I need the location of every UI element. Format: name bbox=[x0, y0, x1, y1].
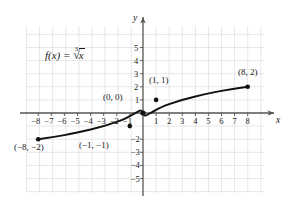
y-tick-5: 5 bbox=[134, 44, 138, 53]
x-tick-neg5: −5 bbox=[71, 117, 80, 126]
x-tick-7: 7 bbox=[232, 117, 236, 126]
label-point-origin: (0, 0) bbox=[103, 93, 123, 102]
label-point-1: (1, 1) bbox=[149, 76, 169, 85]
graph-figure: f(x) = 3√x y x −8 −7 −6 −5 −4 −3 −2 −1 1… bbox=[0, 0, 293, 210]
x-tick-neg1: −1 bbox=[123, 117, 132, 126]
label-point-8: (8, 2) bbox=[238, 68, 258, 77]
x-tick-neg6: −6 bbox=[58, 117, 67, 126]
y-axis bbox=[140, 17, 145, 196]
root-index: 3 bbox=[75, 46, 78, 53]
plot-canvas bbox=[0, 0, 293, 210]
x-tick-neg3: −3 bbox=[97, 117, 106, 126]
function-prefix: f(x) = bbox=[45, 49, 70, 61]
label-point-neg8: (−8, −2) bbox=[14, 143, 44, 152]
x-tick-neg7: −7 bbox=[45, 117, 54, 126]
y-tick-neg3: −3 bbox=[131, 148, 140, 157]
x-tick-3: 3 bbox=[180, 117, 184, 126]
x-tick-4: 4 bbox=[193, 117, 197, 126]
x-tick-2: 2 bbox=[167, 117, 171, 126]
x-tick-5: 5 bbox=[206, 117, 210, 126]
y-tick-2: 2 bbox=[134, 83, 138, 92]
x-tick-neg4: −4 bbox=[84, 117, 93, 126]
y-tick-4: 4 bbox=[134, 57, 138, 66]
x-tick-neg2: −2 bbox=[110, 117, 119, 126]
radicand: x bbox=[79, 48, 85, 61]
point-1 bbox=[154, 98, 159, 103]
y-tick-neg5: −5 bbox=[131, 175, 140, 184]
x-tick-1: 1 bbox=[154, 117, 158, 126]
x-tick-neg8: −8 bbox=[32, 117, 41, 126]
x-tick-6: 6 bbox=[219, 117, 223, 126]
y-axis-label: y bbox=[133, 14, 137, 24]
function-expression-label: f(x) = 3√x bbox=[45, 49, 85, 61]
y-tick-1: 1 bbox=[135, 96, 139, 105]
point-neg8 bbox=[36, 137, 41, 142]
point-8 bbox=[245, 85, 250, 90]
label-point-neg1: (−1, −1) bbox=[79, 141, 109, 150]
y-tick-neg2: −2 bbox=[131, 135, 140, 144]
x-axis-label: x bbox=[276, 116, 280, 126]
point-origin bbox=[140, 110, 145, 115]
y-tick-neg4: −4 bbox=[131, 161, 140, 170]
radical-group: 3√x bbox=[73, 49, 84, 61]
y-tick-3: 3 bbox=[134, 70, 138, 79]
x-tick-8: 8 bbox=[246, 117, 250, 126]
